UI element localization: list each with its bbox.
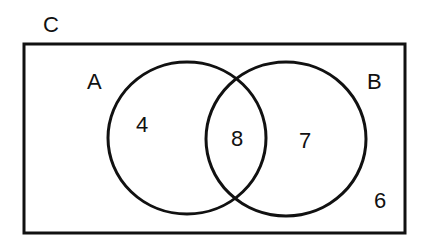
set-a-label: A bbox=[87, 71, 102, 93]
intersection-value: 8 bbox=[231, 128, 243, 150]
a-only-value: 4 bbox=[136, 114, 148, 136]
circle-b bbox=[206, 62, 366, 216]
venn-diagram bbox=[0, 0, 424, 248]
set-b-label: B bbox=[367, 71, 382, 93]
universe-label: C bbox=[43, 14, 59, 36]
universe-rectangle bbox=[24, 44, 405, 233]
outside-value: 6 bbox=[374, 190, 386, 212]
b-only-value: 7 bbox=[299, 130, 311, 152]
